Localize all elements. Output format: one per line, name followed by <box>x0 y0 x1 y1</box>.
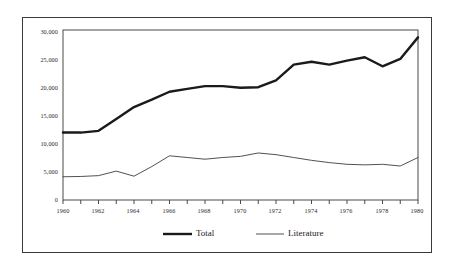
xtick-label-1968: 1968 <box>191 207 217 214</box>
ytick-label-5000: 5,000 <box>24 168 58 175</box>
xtick-label-1978: 1978 <box>369 207 395 214</box>
series-lines <box>63 37 418 176</box>
xtick-label-1966: 1966 <box>156 207 182 214</box>
ytick-label-0: 0 <box>24 196 58 203</box>
xtick-label-1960: 1960 <box>50 207 76 214</box>
line-chart <box>0 0 454 267</box>
ytick-label-20000: 20,000 <box>24 84 58 91</box>
xtick-label-1964: 1964 <box>120 207 146 214</box>
axis-tick-marks <box>63 200 418 204</box>
ytick-label-25000: 25,000 <box>24 56 58 63</box>
xtick-label-1976: 1976 <box>333 207 359 214</box>
plot-area-border <box>63 30 418 200</box>
xtick-label-1972: 1972 <box>262 207 288 214</box>
ytick-label-15000: 15,000 <box>24 112 58 119</box>
xtick-label-1962: 1962 <box>85 207 111 214</box>
legend-label-total: Total <box>196 228 214 238</box>
xtick-label-1980: 1980 <box>404 207 430 214</box>
xtick-label-1970: 1970 <box>227 207 253 214</box>
ytick-label-30000: 30,000 <box>24 28 58 35</box>
xtick-label-1974: 1974 <box>298 207 324 214</box>
ytick-label-10000: 10,000 <box>24 140 58 147</box>
legend-label-literature: Literature <box>288 228 323 238</box>
figure: 30,000 25,000 20,000 15,000 10,000 5,000… <box>0 0 454 267</box>
series-line-total <box>63 37 418 132</box>
series-line-literature <box>63 153 418 177</box>
